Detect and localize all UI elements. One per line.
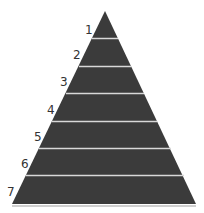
level-label-6: 6: [21, 158, 29, 170]
pyramid-diagram: [0, 0, 204, 213]
level-label-4: 4: [47, 104, 55, 116]
level-label-5: 5: [34, 131, 42, 143]
level-label-1: 1: [85, 24, 93, 36]
level-label-2: 2: [73, 49, 81, 61]
level-label-3: 3: [60, 76, 68, 88]
level-label-7: 7: [7, 186, 15, 198]
